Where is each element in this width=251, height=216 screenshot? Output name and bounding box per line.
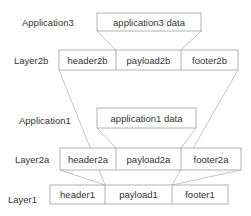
- connector-layer2a-left: [60, 170, 105, 185]
- footer2a-cell: footer2a: [194, 154, 230, 165]
- application1-row: Application1 application1 data: [19, 108, 196, 128]
- payload2b-cell: payload2b: [127, 55, 171, 66]
- footer1-cell: footer1: [185, 189, 215, 200]
- header2b-cell: header2b: [67, 55, 107, 66]
- application1-data-text: application1 data: [111, 113, 184, 124]
- encapsulation-diagram: Application3 application3 data Layer2b h…: [0, 0, 251, 216]
- application3-label: Application3: [22, 17, 74, 28]
- layer2a-row: Layer2a header2a payload2a footer2a: [15, 148, 241, 170]
- footer2b-cell: footer2b: [192, 55, 227, 66]
- layer1-row: Layer1 header1 payload1 footer1: [8, 185, 228, 205]
- payload2a-cell: payload2a: [127, 154, 172, 165]
- payload1-cell: payload1: [119, 189, 158, 200]
- connector-app1-left: [97, 128, 116, 148]
- layer2b-label: Layer2b: [14, 55, 48, 66]
- connector-app3-right: [181, 31, 201, 50]
- header1-cell: header1: [60, 189, 95, 200]
- layer2a-label: Layer2a: [15, 154, 50, 165]
- layer2b-row: Layer2b header2b payload2b footer2b: [14, 50, 238, 70]
- application3-row: Application3 application3 data: [22, 13, 201, 31]
- connector-layer2a-right: [172, 170, 241, 185]
- layer1-label: Layer1: [8, 194, 37, 205]
- application3-data-text: application3 data: [113, 17, 186, 28]
- connector-app3-left: [97, 31, 116, 50]
- connector-app1-right: [181, 128, 196, 148]
- header2a-cell: header2a: [68, 154, 109, 165]
- application1-label: Application1: [19, 115, 71, 126]
